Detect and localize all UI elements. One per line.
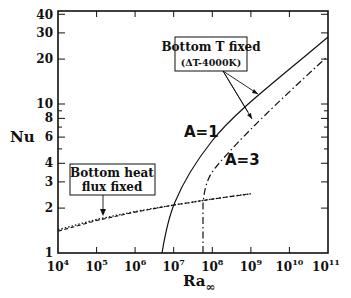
curve-label-a3: A=3 xyxy=(225,151,260,169)
arrow-head-icon xyxy=(247,113,252,119)
y-tick-label: 4 xyxy=(45,156,53,170)
y-tick-label: 10 xyxy=(36,97,53,111)
arrow-head-icon xyxy=(252,89,258,94)
x-tick-label: 104 xyxy=(47,257,70,274)
x-axis-title: Ra∞ xyxy=(183,272,216,294)
series-flux-dotted xyxy=(58,194,251,230)
annotation-text: Bottom heat xyxy=(70,166,154,180)
x-tick-label: 107 xyxy=(163,257,185,274)
annotation-bottom-t-fixed: Bottom T fixed (ΔT-4000K) xyxy=(161,37,261,119)
x-tick-label: 109 xyxy=(240,257,263,274)
x-tick-label: 1010 xyxy=(275,257,303,274)
y-tick-labels: 1 2 3 4 6 8 10 20 30 40 xyxy=(36,8,53,260)
y-tick-label: 8 xyxy=(45,111,53,125)
arrow-head-icon xyxy=(100,209,106,216)
y-tick-label: 20 xyxy=(36,52,53,66)
y-tick-label: 3 xyxy=(45,175,53,189)
annotation-subtext: (ΔT-4000K) xyxy=(181,57,242,68)
y-tick-label: 40 xyxy=(36,8,53,22)
y-tick-label: 6 xyxy=(45,130,53,144)
y-tick-label: 30 xyxy=(36,26,53,40)
x-tick-label: 106 xyxy=(124,257,147,274)
annotation-bottom-flux-fixed: Bottom heat flux fixed xyxy=(70,164,155,216)
x-tick-label: 1011 xyxy=(312,257,340,274)
y-tick-label: 2 xyxy=(45,201,53,215)
series-flux-dashed xyxy=(58,194,251,232)
annotation-text: flux fixed xyxy=(82,180,143,194)
y-tick-label: 1 xyxy=(45,246,53,260)
series-a3-dashdot xyxy=(203,56,328,253)
curve-label-a1: A=1 xyxy=(184,123,219,141)
annotation-text: Bottom T fixed xyxy=(161,40,261,54)
chart-canvas: 1 2 3 4 6 8 10 20 30 40 104 105 106 107 … xyxy=(0,0,351,298)
y-axis-title: Nu xyxy=(10,128,35,146)
x-tick-label: 105 xyxy=(85,257,107,274)
